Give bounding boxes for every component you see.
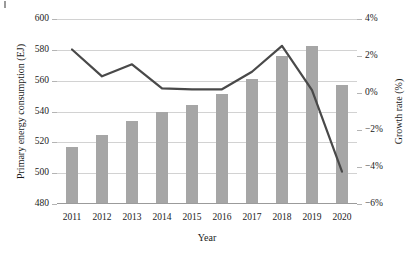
y-axis-left-title-text: Primary energy consumption (EJ) — [16, 44, 27, 179]
y-axis-left-title: Primary energy consumption (EJ) — [14, 19, 28, 204]
x-axis-line — [57, 203, 357, 204]
y-axis-left-tick-label: 580 — [35, 45, 49, 55]
crop-artifact-mark — [4, 1, 6, 8]
x-axis-tick-label: 2018 — [273, 213, 292, 223]
y-axis-left-tick-mark — [52, 204, 57, 205]
y-axis-right-tick-label: −2% — [365, 125, 383, 135]
y-axis-right-tick-mark — [357, 93, 362, 94]
plot-area: 480500520540560580600 −6%−4%−2%0%2%4% 20… — [57, 19, 357, 204]
x-axis-tick-label: 2019 — [303, 213, 322, 223]
y-axis-left-tick-label: 560 — [35, 76, 49, 86]
y-axis-right-tick-label: −4% — [365, 162, 383, 172]
x-axis-tick-label: 2012 — [93, 213, 112, 223]
x-axis-tick-label: 2015 — [183, 213, 202, 223]
line-series — [57, 19, 357, 204]
x-axis-tick-label: 2014 — [153, 213, 172, 223]
y-axis-right-tick-label: −6% — [365, 199, 383, 209]
x-axis-tick-label: 2020 — [333, 213, 352, 223]
y-axis-right-tick-mark — [357, 19, 362, 20]
y-axis-left-tick-label: 540 — [35, 107, 49, 117]
y-axis-left-tick-label: 520 — [35, 138, 49, 148]
y-axis-right-tick-label: 0% — [365, 88, 378, 98]
y-axis-left-tick-label: 500 — [35, 168, 49, 178]
x-axis-tick-label: 2016 — [213, 213, 232, 223]
y-axis-left-tick-label: 480 — [35, 199, 49, 209]
growth-rate-line — [57, 19, 357, 204]
y-axis-right-tick-mark — [357, 130, 362, 131]
y-axis-right-tick-mark — [357, 204, 362, 205]
line-path — [72, 46, 342, 172]
x-axis-tick-label: 2017 — [243, 213, 262, 223]
energy-consumption-growth-chart: Primary energy consumption (EJ) Growth r… — [0, 0, 420, 257]
y-axis-right-tick-mark — [357, 167, 362, 168]
y-axis-right-tick-label: 4% — [365, 14, 378, 24]
x-axis-tick-label: 2013 — [123, 213, 142, 223]
y-axis-right-title-text: Growth rate (%) — [394, 79, 405, 145]
x-axis-tick-label: 2011 — [63, 213, 82, 223]
y-axis-right-title: Growth rate (%) — [392, 19, 406, 204]
y-axis-right-tick-mark — [357, 56, 362, 57]
y-axis-right-tick-label: 2% — [365, 51, 378, 61]
x-axis-title: Year — [57, 232, 357, 243]
y-axis-left-tick-label: 600 — [35, 14, 49, 24]
